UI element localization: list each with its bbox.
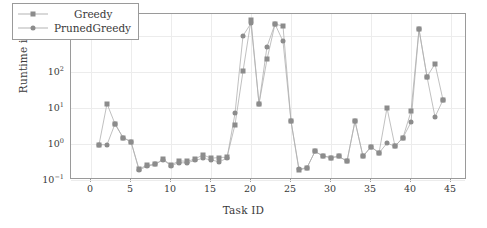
data-point-prunedgreedy [193, 158, 198, 163]
data-point-prunedgreedy [441, 98, 446, 103]
data-point-prunedgreedy [217, 159, 222, 164]
x-tick-label: 10 [155, 183, 185, 194]
legend-item-prunedgreedy: PrunedGreedy [18, 21, 131, 35]
data-point-greedy [409, 109, 414, 114]
data-point-prunedgreedy [289, 119, 294, 124]
y-tick-label: 100 [18, 137, 64, 149]
data-point-prunedgreedy [169, 163, 174, 168]
data-point-prunedgreedy [241, 33, 246, 38]
legend-marker-square-icon [18, 9, 48, 19]
data-point-prunedgreedy [265, 44, 270, 49]
data-point-prunedgreedy [305, 165, 310, 170]
data-point-prunedgreedy [409, 120, 414, 125]
data-point-greedy [265, 57, 270, 62]
data-point-prunedgreedy [209, 157, 214, 162]
x-tick-label: 20 [235, 183, 265, 194]
data-point-prunedgreedy [433, 114, 438, 119]
data-point-prunedgreedy [129, 139, 134, 144]
data-point-greedy [105, 101, 110, 106]
y-tick-label: 101 [18, 101, 64, 113]
legend-label-greedy: Greedy [48, 8, 113, 20]
data-point-prunedgreedy [361, 154, 366, 159]
data-point-prunedgreedy [177, 160, 182, 165]
y-tick-label: 102 [18, 65, 64, 77]
data-point-greedy [281, 24, 286, 29]
gridline-horizontal [71, 180, 465, 181]
data-point-prunedgreedy [145, 164, 150, 169]
data-point-prunedgreedy [297, 167, 302, 172]
data-point-prunedgreedy [321, 154, 326, 159]
y-tick-label: 10−1 [18, 173, 64, 185]
data-point-prunedgreedy [273, 22, 278, 27]
x-tick-label: 30 [315, 183, 345, 194]
data-point-prunedgreedy [153, 162, 158, 167]
data-point-prunedgreedy [337, 154, 342, 159]
data-point-prunedgreedy [385, 141, 390, 146]
x-tick-label: 25 [275, 183, 305, 194]
data-point-greedy [433, 61, 438, 66]
legend-marker-circle-icon [18, 23, 48, 33]
data-point-prunedgreedy [393, 144, 398, 149]
data-point-prunedgreedy [353, 119, 358, 124]
data-point-prunedgreedy [201, 156, 206, 161]
data-point-prunedgreedy [233, 111, 238, 116]
chart-figure: Runtime in sec Task ID 10−1100101102103 … [0, 0, 487, 228]
data-point-prunedgreedy [161, 157, 166, 162]
x-tick-label: 35 [355, 183, 385, 194]
data-point-prunedgreedy [257, 101, 262, 106]
data-point-prunedgreedy [137, 167, 142, 172]
data-point-prunedgreedy [105, 142, 110, 147]
data-point-prunedgreedy [329, 155, 334, 160]
data-point-prunedgreedy [97, 142, 102, 147]
data-point-prunedgreedy [113, 121, 118, 126]
data-point-greedy [233, 122, 238, 127]
data-point-greedy [385, 105, 390, 110]
data-point-prunedgreedy [345, 159, 350, 164]
x-tick-label: 45 [435, 183, 465, 194]
x-tick-label: 5 [115, 183, 145, 194]
x-tick-label: 15 [195, 183, 225, 194]
data-point-prunedgreedy [425, 74, 430, 79]
data-point-prunedgreedy [185, 160, 190, 165]
data-point-prunedgreedy [313, 149, 318, 154]
x-tick-label: 0 [75, 183, 105, 194]
data-point-prunedgreedy [377, 151, 382, 156]
data-point-prunedgreedy [417, 27, 422, 32]
legend-item-greedy: Greedy [18, 7, 131, 21]
legend-label-prunedgreedy: PrunedGreedy [48, 22, 131, 34]
data-point-greedy [241, 69, 246, 74]
data-point-prunedgreedy [369, 144, 374, 149]
data-point-prunedgreedy [401, 135, 406, 140]
x-tick-label: 40 [395, 183, 425, 194]
data-point-prunedgreedy [225, 156, 230, 161]
data-point-prunedgreedy [249, 21, 254, 26]
legend: Greedy PrunedGreedy [12, 3, 139, 40]
x-axis-title: Task ID [0, 204, 487, 216]
data-point-prunedgreedy [121, 135, 126, 140]
data-point-prunedgreedy [281, 39, 286, 44]
